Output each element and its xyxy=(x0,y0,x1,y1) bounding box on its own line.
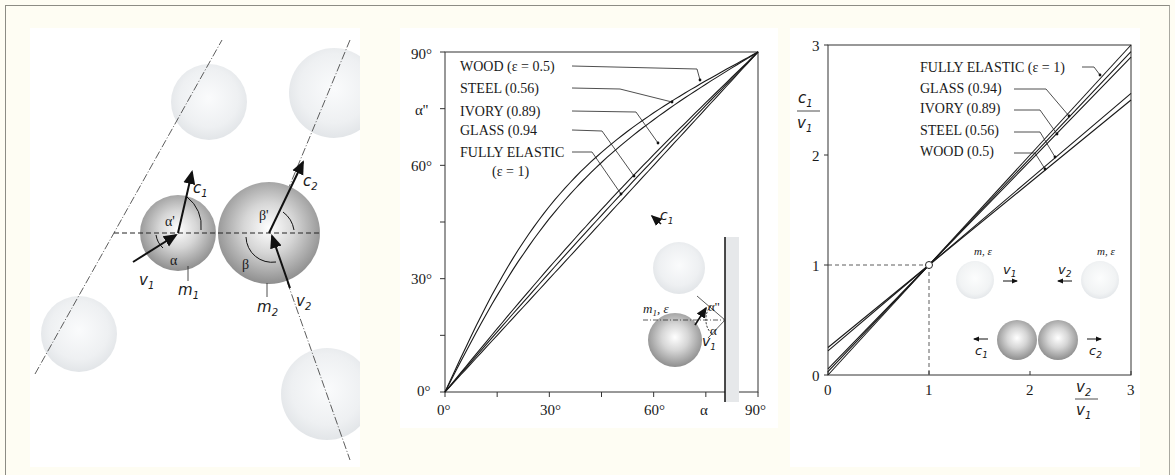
legend-item: STEEL (0.56) xyxy=(920,123,999,139)
label-beta-prime: β' xyxy=(259,208,269,223)
label-alpha: α xyxy=(170,253,178,268)
x-tick-90: 90° xyxy=(745,402,766,418)
legend-item: FULLY ELASTIC xyxy=(460,145,564,160)
legend-item: STEEL (0.56) xyxy=(460,81,539,97)
ghost-ball-left xyxy=(956,261,994,299)
label-v2-inset-right: v2 xyxy=(1058,262,1072,279)
x-tick-0: 0° xyxy=(437,402,451,418)
legend-leader xyxy=(572,111,658,143)
y-tick-3: 3 xyxy=(812,38,820,54)
label-c1-inset: c1 xyxy=(660,207,673,226)
ghost-sphere-m1-after xyxy=(171,64,247,140)
legend-leader xyxy=(572,130,634,176)
ghost-ball-after xyxy=(653,242,705,294)
legend-item: FULLY ELASTIC (ε = 1) xyxy=(920,60,1065,76)
y-tick-0: 0° xyxy=(417,383,431,399)
ghost-sphere-m1-before xyxy=(41,296,117,372)
label-v1: v1 xyxy=(139,271,154,291)
y-tick-30: 30° xyxy=(411,271,432,287)
marker-unity-point xyxy=(926,262,933,269)
y-tick-90: 90° xyxy=(411,46,432,62)
label-alpha-prime: α' xyxy=(165,214,175,229)
inset-head-on-collision: m, ε m, ε v1 v2 c1 c2 xyxy=(956,245,1119,360)
legend-leader xyxy=(572,66,700,80)
label-c2-inset-right: c2 xyxy=(1089,343,1102,360)
legend-item: (ε = 1) xyxy=(492,164,529,180)
x-tick-1: 1 xyxy=(925,382,933,398)
arrow-v1-inset xyxy=(695,308,706,325)
legend-leader xyxy=(1014,110,1057,134)
inset-ball-wall: c1 m1, ε α'' α v1 xyxy=(643,207,739,402)
collision-diagram-svg: c1 c2 v1 v2 m1 m2 α α' β β' xyxy=(30,28,360,467)
y-axis-label: c1 v1 xyxy=(797,89,820,134)
chart-velocity-ratio: FULLY ELASTIC (ε = 1)GLASS (0.94)IVORY (… xyxy=(790,28,1140,467)
label-c1: c1 xyxy=(193,179,208,199)
wall xyxy=(725,237,739,402)
label-m1: m1 xyxy=(178,281,199,301)
legend-item: WOOD (0.5) xyxy=(920,144,994,160)
label-alpha-dd-inset: α'' xyxy=(708,299,720,314)
svg-text:v1: v1 xyxy=(1076,401,1091,421)
x-axis-label-alpha: α xyxy=(700,402,708,418)
ghost-ball-right xyxy=(1081,261,1119,299)
y-axis-label-alpha-dd: α'' xyxy=(415,102,429,118)
legend-mid: WOOD (ε = 0.5)STEEL (0.56)IVORY (0.89)GL… xyxy=(460,59,701,195)
series-line xyxy=(828,52,1131,372)
y-tick-60: 60° xyxy=(411,158,432,174)
label-v2: v2 xyxy=(296,292,311,312)
label-m-eps-right: m, ε xyxy=(1097,245,1115,257)
series-line xyxy=(445,52,758,392)
ball-right xyxy=(1038,320,1078,360)
legend-item: WOOD (ε = 0.5) xyxy=(460,59,555,75)
legend-item: IVORY (0.89) xyxy=(460,104,541,120)
label-alpha-inset: α xyxy=(710,323,717,338)
ghost-sphere-m2-before xyxy=(281,348,360,440)
label-m1-eps: m1, ε xyxy=(643,301,669,318)
ball-left xyxy=(997,320,1037,360)
y-tick-2: 2 xyxy=(812,148,820,164)
label-beta: β xyxy=(242,257,249,272)
legend-item: GLASS (0.94 xyxy=(460,123,537,139)
y-tick-1: 1 xyxy=(812,258,820,274)
ball-before xyxy=(648,313,702,367)
x-tick-3: 3 xyxy=(1127,382,1135,398)
svg-text:c1: c1 xyxy=(798,89,813,109)
x-tick-0: 0 xyxy=(824,382,832,398)
label-c2: c2 xyxy=(303,172,318,192)
x-tick-30: 30° xyxy=(540,402,561,418)
label-c1-inset-right: c1 xyxy=(975,343,988,360)
chart-velocity-ratio-svg: FULLY ELASTIC (ε = 1)GLASS (0.94)IVORY (… xyxy=(790,28,1140,467)
chart-rebound-angle: WOOD (ε = 0.5)STEEL (0.56)IVORY (0.89)GL… xyxy=(400,28,778,428)
legend-leader xyxy=(572,88,672,102)
legend-item: GLASS (0.94) xyxy=(920,81,1002,97)
x-tick-60: 60° xyxy=(644,402,665,418)
x-tick-2: 2 xyxy=(1026,382,1034,398)
chart-rebound-angle-svg: WOOD (ε = 0.5)STEEL (0.56)IVORY (0.89)GL… xyxy=(400,28,778,428)
svg-text:v2: v2 xyxy=(1076,378,1091,398)
label-v1-inset-right: v1 xyxy=(1003,262,1016,279)
label-m-eps-left: m, ε xyxy=(974,245,992,257)
oblique-collision-diagram: c1 c2 v1 v2 m1 m2 α α' β β' xyxy=(30,28,360,467)
legend-leader xyxy=(1082,67,1100,75)
y-tick-0: 0 xyxy=(812,368,820,384)
ghost-sphere-m2-after xyxy=(289,48,360,138)
svg-text:v1: v1 xyxy=(797,114,812,134)
series-curves-mid xyxy=(445,52,758,392)
label-m2: m2 xyxy=(257,298,278,318)
x-axis-label: v2 v1 xyxy=(1075,378,1098,421)
legend-item: IVORY (0.89) xyxy=(920,101,1001,117)
